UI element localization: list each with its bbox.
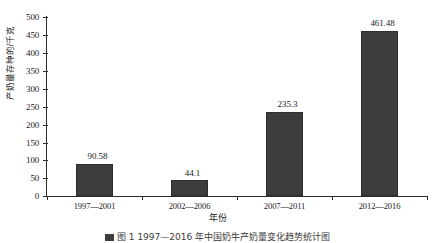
figure-caption-text: 图 1 1997—2016 年中国奶牛产奶量变化趋势统计图	[117, 232, 330, 242]
y-axis-tick-label: 150	[5, 139, 39, 148]
x-axis-tick	[142, 196, 143, 200]
y-axis-tick-label: 50	[5, 174, 39, 183]
bar-2002-2006[interactable]	[171, 180, 208, 196]
y-axis-tick-label: 200	[5, 121, 39, 130]
caption-marker-icon	[105, 234, 114, 241]
x-axis-category-label: 2002—2006	[148, 201, 231, 211]
bar-1997-2001[interactable]	[76, 164, 113, 196]
x-axis-tick	[427, 196, 428, 200]
bar-value-label: 44.1	[151, 169, 234, 178]
bar-value-label: 90.58	[56, 152, 139, 161]
plot-area	[47, 17, 428, 196]
y-axis-tick-label: 0	[5, 192, 39, 201]
y-axis-tick-label: 100	[5, 156, 39, 165]
bar-value-label: 235.3	[246, 100, 329, 109]
y-axis-title: 产奶量存种的/千克	[5, 15, 15, 111]
x-axis-category-label: 1997—2001	[53, 201, 136, 211]
x-axis-tick	[332, 196, 333, 200]
x-axis-tick	[237, 196, 238, 200]
x-axis-tick	[47, 196, 48, 200]
bar-2007-2011[interactable]	[266, 112, 303, 196]
figure-caption: 图 1 1997—2016 年中国奶牛产奶量变化趋势统计图	[0, 232, 435, 243]
x-axis-category-label: 2007—2011	[243, 201, 326, 211]
x-axis-category-label: 2012—2016	[338, 201, 421, 211]
x-axis-title: 年份	[0, 213, 435, 223]
bar-2012-2016[interactable]	[361, 31, 398, 196]
bar-value-label: 461.48	[341, 19, 424, 28]
